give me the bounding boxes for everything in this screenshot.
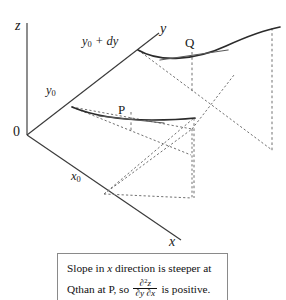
point-label-P: P <box>118 103 125 116</box>
caption-text: Slope in x direction is steeper at Qthan… <box>67 260 219 299</box>
caption-line2-b: is positive. <box>159 282 211 294</box>
label-x0: x0 <box>71 170 81 184</box>
dash-base-parallel-y-lower <box>104 129 192 194</box>
fraction-num-z: z <box>147 277 151 287</box>
dash-base-parallel-y-upper <box>192 75 234 129</box>
tangent-at-Q-segment <box>160 50 228 60</box>
axis-label-y: y <box>160 22 166 36</box>
caption-box: Slope in x direction is steeper at Qthan… <box>57 253 228 300</box>
label-y0-plus-dy-rest: + dy <box>92 34 118 48</box>
origin-label: 0 <box>13 125 20 139</box>
axis-label-x: x <box>169 235 175 249</box>
point-label-Q: Q <box>185 36 194 49</box>
x-axis-line <box>27 135 181 240</box>
fraction-denominator: ∂y ∂x <box>133 289 157 299</box>
caption-line2-a: than at P, so <box>75 282 132 294</box>
label-x0-subscript: 0 <box>77 174 81 184</box>
axes-group <box>27 23 181 240</box>
dash-y0dy-to-base <box>138 50 272 150</box>
dash-cross-P-b <box>104 118 194 194</box>
label-y0-plus-dy: y0 + dy <box>82 35 118 49</box>
dash-y0-to-base <box>72 107 192 129</box>
label-y0-subscript: 0 <box>52 88 56 98</box>
construction-dashed-lines <box>72 28 272 198</box>
figure-root: z 0 y x y0 + dy y0 x0 P Q Slope in x dir… <box>0 0 286 300</box>
axis-label-z: z <box>15 19 20 33</box>
label-y0: y0 <box>46 84 56 98</box>
second-partial-derivative-fraction: ∂2z ∂y ∂x <box>133 278 157 299</box>
caption-line1-a: Slope in <box>67 262 107 274</box>
